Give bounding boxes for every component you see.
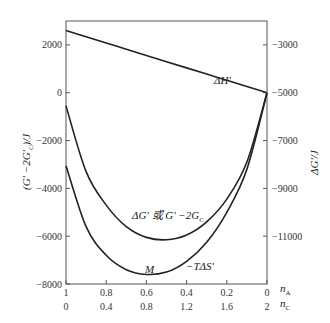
nC-label: nC <box>280 297 291 312</box>
svg-text:−7000: −7000 <box>272 135 298 146</box>
svg-text:−8000: −8000 <box>36 279 62 290</box>
curve <box>66 31 267 93</box>
TdS-label: −TΔS' <box>186 260 214 272</box>
curves <box>66 31 267 275</box>
svg-text:0: 0 <box>265 287 270 298</box>
chart: 20000−2000−4000−6000−8000−3000−5000−7000… <box>0 0 330 323</box>
dG-label: ΔG' 或 G' −2GC <box>131 209 204 224</box>
svg-text:0.8: 0.8 <box>140 301 153 312</box>
svg-text:−9000: −9000 <box>272 183 298 194</box>
svg-text:0.6: 0.6 <box>140 287 153 298</box>
svg-text:0.8: 0.8 <box>100 287 113 298</box>
svg-text:−11000: −11000 <box>272 231 302 242</box>
tick-marks <box>66 45 267 284</box>
svg-text:−6000: −6000 <box>36 231 62 242</box>
nA-label: nA <box>280 282 291 297</box>
svg-text:−2000: −2000 <box>36 135 62 146</box>
svg-text:0.4: 0.4 <box>100 301 113 312</box>
svg-text:1: 1 <box>64 287 69 298</box>
svg-text:1.2: 1.2 <box>180 301 193 312</box>
svg-text:0: 0 <box>57 87 62 98</box>
svg-text:2000: 2000 <box>42 39 62 50</box>
y-left-label: (G' −2G'C)/J <box>20 133 35 190</box>
dH-label: ΔH' <box>213 74 231 86</box>
M-label: M <box>144 263 155 275</box>
svg-text:0: 0 <box>64 301 69 312</box>
y-right-label: ΔG'/J <box>308 149 320 176</box>
svg-text:−5000: −5000 <box>272 87 298 98</box>
svg-text:−3000: −3000 <box>272 39 298 50</box>
svg-text:0.2: 0.2 <box>221 287 234 298</box>
svg-text:1.6: 1.6 <box>221 301 234 312</box>
svg-text:2: 2 <box>265 301 270 312</box>
svg-text:−4000: −4000 <box>36 183 62 194</box>
svg-text:0.4: 0.4 <box>180 287 193 298</box>
